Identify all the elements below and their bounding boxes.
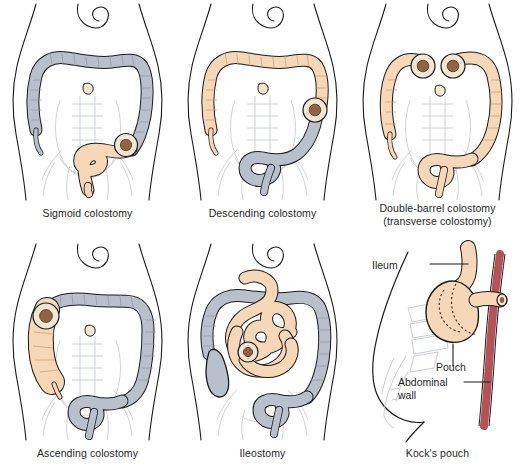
label-abdominal-wall-line2: wall: [398, 389, 416, 401]
stoma-marker-proximal: [411, 54, 435, 78]
panel-kocks-pouch: Ileum Pouch Abdominal wall Kock's pouch: [350, 240, 525, 471]
panel-caption-ileostomy: Ileostomy: [175, 447, 350, 460]
caption-text: Sigmoid colostomy: [43, 207, 133, 219]
descending-colostomy-illustration: [175, 0, 350, 205]
label-pouch: Pouch: [436, 361, 466, 373]
panel-caption-ascending-colostomy: Ascending colostomy: [0, 447, 175, 460]
caption-text: Ascending colostomy: [37, 447, 138, 459]
caption-text: Descending colostomy: [209, 207, 317, 219]
stoma-marker-distal: [441, 54, 465, 78]
caption-text: Ileostomy: [240, 447, 286, 459]
label-ileum: Ileum: [372, 259, 398, 271]
panel-ileostomy: Ileostomy: [175, 240, 350, 471]
double-barrel-colostomy-illustration: [350, 0, 525, 205]
panel-ascending-colostomy: Ascending colostomy: [0, 240, 175, 471]
sigmoid-colostomy-illustration: [0, 0, 175, 205]
panel-caption-sigmoid-colostomy: Sigmoid colostomy: [0, 207, 175, 220]
ostomy-types-figure: Sigmoid colostomy: [0, 0, 525, 471]
panel-double-barrel-colostomy: Double-barrel colostomy (transverse colo…: [350, 0, 525, 235]
label-abdominal-wall-line1: Abdominal: [398, 376, 448, 388]
ascending-colostomy-illustration: [0, 240, 175, 445]
panel-sigmoid-colostomy: Sigmoid colostomy: [0, 0, 175, 235]
stoma-marker: [303, 98, 327, 122]
caption-text: Kock's pouch: [406, 447, 469, 459]
caption-text-line2: (transverse colostomy): [350, 215, 525, 228]
stoma-marker: [115, 134, 138, 157]
ileostomy-illustration: [175, 240, 350, 445]
panel-caption-kocks-pouch: Kock's pouch: [350, 447, 525, 460]
panel-descending-colostomy: Descending colostomy: [175, 0, 350, 235]
caption-text: Double-barrel colostomy: [379, 202, 495, 214]
stoma-marker: [33, 303, 59, 329]
panel-caption-double-barrel-colostomy: Double-barrel colostomy (transverse colo…: [350, 202, 525, 227]
panel-caption-descending-colostomy: Descending colostomy: [175, 207, 350, 220]
stoma-marker: [238, 342, 258, 362]
